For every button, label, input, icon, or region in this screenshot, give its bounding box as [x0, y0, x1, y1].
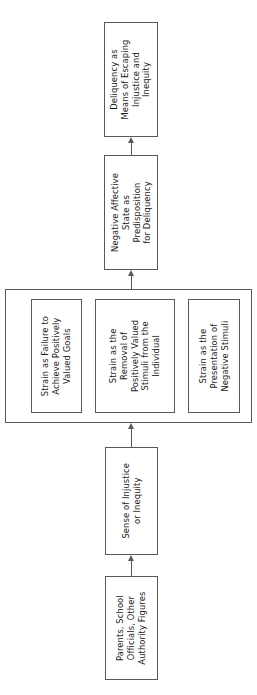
node-delinquency: Deliquency as Means of Escaping Injustic…: [104, 22, 158, 137]
arrowhead-up-icon: [128, 423, 134, 429]
node-authority-figures: Parents, School Officials, Other Authori…: [105, 576, 158, 680]
node-strain-removal-label: Strain as the Removal of Positively Valu…: [108, 320, 162, 392]
node-sense-of-injustice: Sense of Injustice or Inequity: [105, 447, 158, 555]
connector-negative-affect-to-delinquency: [131, 143, 132, 155]
arrowhead-up-icon: [128, 270, 134, 276]
node-sense-of-injustice-label: Sense of Injustice or Inequity: [121, 463, 143, 539]
arrowhead-up-icon: [128, 555, 134, 561]
flowchart-canvas: Deliquency as Means of Escaping Injustic…: [0, 0, 257, 695]
connector-injustice-to-strain-group: [131, 429, 132, 447]
arrowhead-up-icon: [128, 137, 134, 143]
node-strain-presentation-of-negative-stimuli: Strain as the Presentation of Negative S…: [188, 299, 240, 413]
node-delinquency-label: Deliquency as Means of Escaping Injustic…: [110, 40, 153, 120]
connector-strain-group-to-negative-affective-state: [131, 276, 132, 289]
node-negative-affective-state-label: Negative Affective State as Predispositi…: [110, 173, 153, 252]
node-strain-failure-to-achieve-goals: Strain as Failure to Achieve Positively …: [31, 299, 82, 413]
node-strain-negative-label: Strain as the Presentation of Negative S…: [198, 321, 230, 392]
node-authority-figures-label: Parents, School Officials, Other Authori…: [115, 591, 147, 664]
node-strain-failure-label: Strain as Failure to Achieve Positively …: [40, 316, 72, 396]
node-strain-removal-of-positive-stimuli: Strain as the Removal of Positively Valu…: [95, 299, 175, 413]
node-negative-affective-state: Negative Affective State as Predispositi…: [104, 155, 158, 270]
connector-authority-to-injustice: [131, 561, 132, 576]
